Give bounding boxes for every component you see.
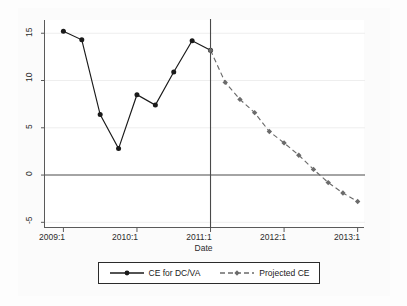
y-tick-label-1: 10 [24, 64, 34, 82]
y-tick-label-3: 0 [24, 158, 34, 176]
x-tick-label-2: 2011:1 [169, 232, 229, 242]
series-projected-ce-line [211, 50, 358, 201]
legend-item-projected-ce[interactable]: Projected CE [219, 268, 309, 278]
x-tick-label-1: 2010:1 [95, 232, 155, 242]
legend-key-dashed-icon [219, 268, 255, 278]
data-point [98, 112, 103, 117]
legend-key-solid-icon [109, 268, 145, 278]
y-tick-label-2: 5 [24, 111, 34, 129]
legend-label-ce-for-dcva: CE for DC/VA [149, 268, 201, 278]
data-point [340, 190, 345, 195]
data-point [355, 199, 360, 204]
data-point [153, 103, 158, 108]
x-axis-title: Date [0, 243, 407, 253]
gridlines [45, 33, 365, 222]
data-point [190, 38, 195, 43]
x-tick-label-3: 2012:1 [243, 232, 303, 242]
series-projected-ce-markers [208, 48, 361, 205]
series-ce-for-dcva-line [63, 31, 210, 148]
chart-figure: 15 10 5 0 -5 [0, 0, 407, 306]
x-tick-label-4: 2013:1 [317, 232, 377, 242]
data-point [116, 146, 121, 151]
y-tick-label-0: 15 [24, 19, 34, 37]
x-tick-label-0: 2009:1 [22, 232, 82, 242]
data-point [61, 29, 66, 34]
legend-item-ce-for-dcva[interactable]: CE for DC/VA [109, 268, 201, 278]
y-tick-label-4: -5 [24, 202, 34, 224]
plot-area [44, 20, 364, 228]
chart-legend: CE for DC/VA Projected CE [98, 262, 320, 284]
data-point [134, 92, 139, 97]
chart-svg [45, 20, 365, 228]
data-point [171, 70, 176, 75]
legend-label-projected-ce: Projected CE [259, 268, 309, 278]
data-point [208, 48, 213, 53]
data-point [79, 37, 84, 42]
